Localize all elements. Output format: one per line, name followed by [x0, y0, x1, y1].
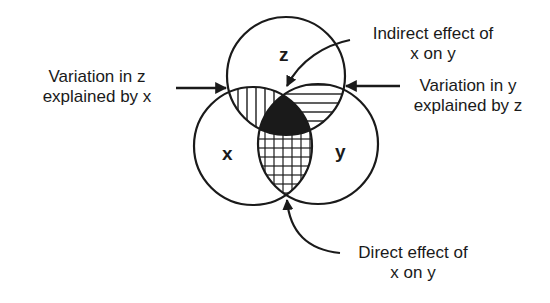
label-z: z [279, 44, 289, 66]
label-x: x [222, 143, 233, 165]
label-y: y [335, 141, 346, 163]
annotation-line: Variation in z [27, 67, 167, 87]
arrow-direct-effect [287, 200, 340, 253]
annotation-direct-effect: Direct effect of x on y [338, 243, 488, 283]
annotation-line: explained by z [398, 96, 538, 116]
venn-diagram: z x y Variation in z explained by x Indi… [0, 0, 550, 303]
annotation-line: Variation in y [398, 76, 538, 96]
annotation-indirect-effect: Indirect effect of x on y [348, 24, 518, 64]
arrow-indirect-effect [287, 40, 350, 86]
annotation-line: x on y [338, 263, 488, 283]
annotation-variation-z-by-x: Variation in z explained by x [27, 67, 167, 107]
annotation-line: Indirect effect of [348, 24, 518, 44]
annotation-line: explained by x [27, 87, 167, 107]
annotation-line: Direct effect of [338, 243, 488, 263]
annotation-line: x on y [348, 44, 518, 64]
annotation-variation-y-by-z: Variation in y explained by z [398, 76, 538, 116]
